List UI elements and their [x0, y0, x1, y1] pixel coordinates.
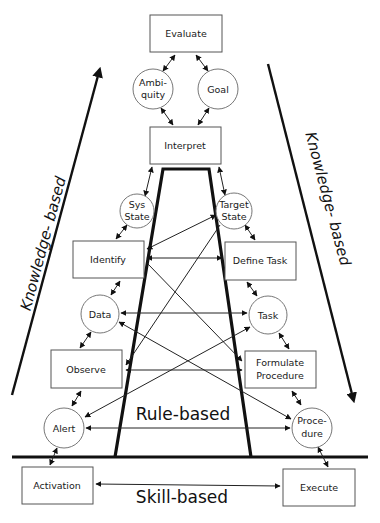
node-label: Target: [218, 199, 249, 210]
node-formulate-procedure: Formulate Procedure: [245, 351, 316, 388]
node-goal: Goal: [198, 69, 238, 109]
node-label: Data: [89, 309, 112, 320]
node-label: Alert: [53, 423, 76, 434]
knowledge-ascending-arrow: [12, 72, 99, 395]
node-label: Define Task: [233, 255, 288, 266]
node-label: Identify: [90, 254, 126, 265]
node-label: Formulate: [256, 357, 304, 368]
node-label: Goal: [207, 84, 229, 95]
node-label: dure: [301, 428, 323, 439]
node-observe: Observe: [51, 350, 122, 388]
node-label: Execute: [300, 482, 338, 493]
node-label: quity: [141, 89, 165, 100]
node-label: Proce-: [297, 415, 327, 426]
node-label: Activation: [33, 480, 81, 491]
knowledge-based-right-label: Knowledge- based: [301, 130, 354, 268]
node-interpret: Interpret: [150, 127, 221, 164]
node-label: Task: [257, 310, 279, 321]
node-identify: Identify: [73, 241, 144, 278]
node-target-state: Target State: [216, 193, 252, 229]
node-execute: Execute: [283, 469, 355, 506]
node-sys-state: Sys State: [120, 194, 154, 228]
node-define-task: Define Task: [225, 242, 296, 280]
node-label: State: [221, 211, 246, 222]
skill-based-label: Skill-based: [136, 487, 228, 507]
node-alert: Alert: [44, 408, 84, 448]
node-task: Task: [249, 296, 287, 334]
node-label: Interpret: [164, 140, 206, 151]
rule-based-label: Rule-based: [136, 404, 230, 424]
node-data: Data: [81, 295, 119, 333]
node-label: Ambi-: [139, 77, 167, 88]
node-label: Procedure: [256, 370, 304, 381]
node-label: Observe: [66, 364, 106, 375]
knowledge-based-left-label: Knowledge- based: [17, 174, 70, 312]
node-label: Evaluate: [165, 28, 207, 39]
node-label: Sys: [129, 199, 146, 210]
node-evaluate: Evaluate: [150, 15, 222, 52]
decision-ladder-diagram: Evaluate Ambi- quity Goal Interpret Sys …: [0, 0, 380, 523]
node-activation: Activation: [22, 467, 93, 504]
node-label: State: [124, 211, 149, 222]
node-procedure: Proce- dure: [292, 408, 332, 448]
node-ambiguity: Ambi- quity: [133, 69, 173, 109]
